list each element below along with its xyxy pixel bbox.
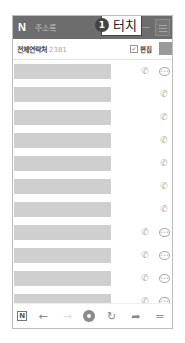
naver-logo[interactable]: N — [18, 21, 26, 33]
message-icon[interactable]: ••• — [159, 67, 170, 76]
contact-row[interactable]: ✆••• — [13, 267, 172, 290]
contact-name-redacted[interactable] — [14, 179, 111, 194]
contact-name-redacted[interactable] — [14, 64, 111, 79]
contact-row[interactable]: ✆••• — [13, 221, 172, 244]
phone-icon[interactable]: ✆ — [159, 89, 169, 99]
menu-line-icon — [159, 28, 167, 29]
contacts-count: 2381 — [49, 46, 67, 54]
contact-row[interactable]: ✆••• — [13, 244, 172, 267]
message-icon[interactable]: ••• — [159, 228, 170, 237]
phone-icon[interactable]: ✆ — [159, 181, 169, 191]
contact-name-redacted[interactable] — [14, 87, 111, 102]
all-contacts-label: 전체연락처2381 — [17, 44, 67, 54]
menu-icon[interactable]: ═ — [152, 310, 168, 323]
contact-name-redacted[interactable] — [14, 110, 111, 125]
checkbox-icon[interactable]: ✓ — [130, 45, 138, 53]
forward-icon[interactable]: → — [59, 310, 75, 323]
menu-line-icon — [159, 31, 167, 32]
phone-icon[interactable]: ✆ — [140, 66, 150, 76]
menu-line-icon — [159, 25, 167, 26]
back-icon[interactable]: ← — [35, 310, 51, 323]
phone-screen: N 주소록 1 터치 전체연락처2381 ✓ 편집 ✆••• ✆ ✆ ✆ ✆ ✆… — [12, 15, 173, 329]
contact-row[interactable]: ✆ — [13, 175, 172, 198]
contact-row[interactable]: ✆ — [13, 152, 172, 175]
share-icon[interactable]: ➦ — [128, 310, 144, 323]
contact-name-redacted[interactable] — [14, 271, 111, 286]
contact-name-redacted[interactable] — [14, 248, 111, 263]
phone-icon[interactable]: ✆ — [140, 227, 150, 237]
contact-name-redacted[interactable] — [14, 202, 111, 217]
menu-button[interactable] — [155, 19, 170, 36]
contact-name-redacted[interactable] — [14, 225, 111, 240]
app-header: N 주소록 1 터치 — [13, 16, 172, 39]
contact-name-redacted[interactable] — [14, 156, 111, 171]
browser-toolbar: N ← → ↻ ➦ ═ — [13, 303, 172, 328]
contact-row[interactable]: ✆••• — [13, 60, 172, 83]
message-icon[interactable]: ••• — [159, 251, 170, 260]
contact-row[interactable]: ✆ — [13, 106, 172, 129]
contact-row[interactable]: ✆ — [13, 129, 172, 152]
edit-toggle[interactable]: ✓ 편집 — [130, 44, 152, 54]
phone-icon[interactable]: ✆ — [159, 112, 169, 122]
phone-icon[interactable]: ✆ — [159, 158, 169, 168]
home-button-icon[interactable] — [83, 310, 95, 322]
edit-label: 편집 — [140, 44, 152, 54]
step-number-badge: 1 — [95, 18, 109, 32]
message-icon[interactable]: ••• — [159, 274, 170, 283]
phone-icon[interactable]: ✆ — [159, 135, 169, 145]
contact-name-redacted[interactable] — [14, 133, 111, 148]
refresh-icon[interactable]: ↻ — [104, 310, 120, 323]
naver-home-icon[interactable]: N — [17, 311, 27, 321]
phone-icon[interactable]: ✆ — [159, 204, 169, 214]
page-title: 주소록 — [35, 22, 56, 33]
contact-row[interactable]: ✆ — [13, 198, 172, 221]
add-contact-button[interactable] — [159, 42, 172, 55]
phone-icon[interactable]: ✆ — [140, 250, 150, 260]
contact-row[interactable]: ✆ — [13, 83, 172, 106]
contacts-subheader: 전체연락처2381 ✓ 편집 — [13, 39, 172, 60]
contact-list: ✆••• ✆ ✆ ✆ ✆ ✆ ✆ ✆••• ✆••• ✆••• ✆••• ✆••… — [13, 60, 172, 329]
callout-text: 터치 — [113, 15, 137, 34]
phone-icon[interactable]: ✆ — [140, 273, 150, 283]
touch-callout: 1 터치 — [101, 15, 142, 36]
